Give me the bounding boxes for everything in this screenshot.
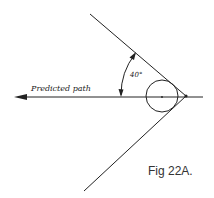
diagram-canvas: Predicted path 40° Fig 22A. xyxy=(0,0,214,198)
vertex-dot xyxy=(184,94,187,97)
angle-label: 40° xyxy=(130,71,142,79)
circle xyxy=(146,80,178,112)
figure-label: Fig 22A. xyxy=(148,164,193,178)
path-arrowhead-icon xyxy=(14,94,27,100)
arc-arrowhead-top-icon xyxy=(130,52,137,60)
predicted-path-label: Predicted path xyxy=(31,84,91,93)
arc-arrowhead-bottom-icon xyxy=(119,89,124,97)
circle-center-dot xyxy=(161,96,163,98)
